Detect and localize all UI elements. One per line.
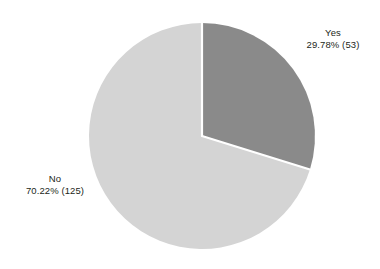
pie-label-no: No 70.22% (125): [0, 173, 110, 196]
pie-chart: Yes 29.78% (53) No 70.22% (125): [0, 0, 380, 269]
pie-label-yes-name: Yes: [286, 27, 380, 39]
pie-label-no-value: 70.22% (125): [0, 185, 110, 197]
pie-label-no-name: No: [0, 173, 110, 185]
pie-label-yes: Yes 29.78% (53): [286, 27, 380, 50]
pie-label-yes-value: 29.78% (53): [286, 39, 380, 51]
